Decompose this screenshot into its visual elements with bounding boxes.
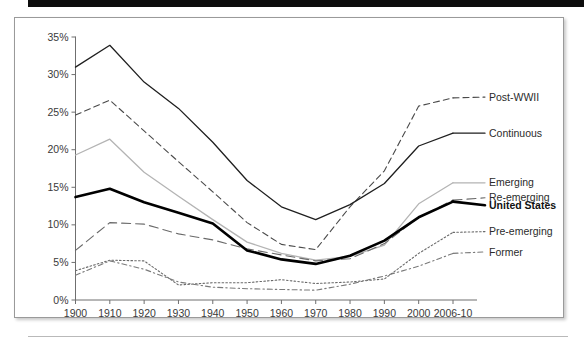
y-tick-label: 0% [53, 294, 68, 306]
x-tick-label: 1930 [167, 307, 191, 318]
top-black-bar [28, 0, 584, 7]
x-tick-label: 1950 [235, 307, 259, 318]
y-tick-label: 10% [47, 218, 68, 230]
y-tick-label: 25% [47, 106, 68, 118]
series-line [76, 189, 454, 264]
y-axis: 0%5%10%15%20%25%30%35% [47, 31, 75, 306]
y-tick-label: 20% [47, 143, 68, 155]
series-emerging: Emerging [76, 139, 535, 260]
series-united-states: United States [76, 189, 557, 264]
y-tick-label: 30% [47, 68, 68, 80]
series-leader-line [453, 202, 485, 206]
series-leader-line [453, 232, 485, 233]
x-tick-label: 1960 [270, 307, 294, 318]
series-leader-line [453, 252, 485, 254]
y-tick-label: 5% [53, 256, 68, 268]
bottom-divider-rule [28, 336, 568, 337]
series-line [76, 45, 454, 219]
figure-panel: 0%5%10%15%20%25%30%35%190019101920193019… [14, 17, 564, 318]
series-label-continuous: Continuous [489, 127, 542, 139]
series-post-wwii: Post-WWII [76, 91, 540, 250]
line-chart: 0%5%10%15%20%25%30%35%190019101920193019… [15, 18, 563, 317]
series-former: Former [76, 246, 524, 291]
x-tick-label: 1940 [201, 307, 225, 318]
series-label-emerging: Emerging [489, 176, 534, 188]
series-line [76, 232, 454, 285]
y-tick-label: 15% [47, 181, 68, 193]
x-tick-label: 1970 [304, 307, 328, 318]
series-leader-line [453, 198, 485, 200]
series-label-united-states: United States [489, 199, 556, 211]
x-tick-label: 2006-10 [434, 307, 473, 318]
series-label-post-wwii: Post-WWII [489, 91, 539, 103]
x-axis: 1900191019201930194019501960197019801990… [64, 300, 477, 317]
series-label-former: Former [489, 246, 523, 258]
x-tick-label: 2000 [407, 307, 431, 318]
x-tick-label: 1980 [338, 307, 362, 318]
x-tick-label: 1990 [373, 307, 397, 318]
series-leader-line [453, 97, 485, 98]
series-pre-emerging: Pre-emerging [76, 225, 553, 285]
series-line [76, 139, 454, 260]
series-line [76, 98, 454, 250]
y-tick-label: 35% [47, 31, 68, 43]
x-tick-label: 1900 [64, 307, 88, 318]
chart-page: 0%5%10%15%20%25%30%35%190019101920193019… [0, 0, 584, 344]
series-line [76, 253, 454, 290]
x-tick-label: 1920 [132, 307, 156, 318]
series-label-pre-emerging: Pre-emerging [489, 225, 553, 237]
x-tick-label: 1910 [98, 307, 122, 318]
